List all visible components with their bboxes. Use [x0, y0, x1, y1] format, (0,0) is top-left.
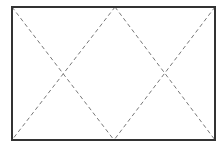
canvas-background: [0, 0, 220, 149]
diagram-canvas: [0, 0, 220, 149]
